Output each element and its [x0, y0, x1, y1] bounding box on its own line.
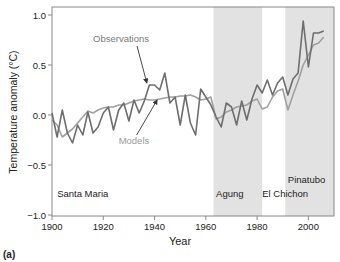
- annotation-label: Models: [119, 135, 150, 146]
- annotation-arrow: [137, 100, 157, 135]
- event-label: Santa Maria: [57, 188, 109, 199]
- y-tick-label: −1.0: [27, 210, 46, 221]
- shaded-region: [214, 7, 263, 216]
- event-label: El Chichon: [262, 188, 308, 199]
- series-models: [52, 37, 324, 137]
- x-tick-label: 2000: [298, 221, 319, 232]
- x-tick-label: 1900: [41, 221, 62, 232]
- panel-label: (a): [3, 249, 15, 260]
- x-tick-label: 1960: [195, 221, 216, 232]
- x-tick-label: 1920: [93, 221, 114, 232]
- annotation-label: Observations: [93, 33, 149, 44]
- y-tick-label: 0.5: [33, 60, 46, 71]
- x-tick-label: 1940: [144, 221, 165, 232]
- y-axis-label: Temperature anomaly (°C): [7, 50, 19, 173]
- x-axis-label: Year: [169, 235, 192, 247]
- temperature-anomaly-chart: −1.0−0.50.00.51.019001920194019601980200…: [0, 0, 340, 262]
- y-tick-label: −0.5: [27, 160, 46, 171]
- event-label: Agung: [216, 188, 243, 199]
- y-tick-label: 1.0: [33, 10, 46, 21]
- y-tick-label: 0.0: [33, 110, 46, 121]
- event-labels: Santa MariaAgungEl ChichonPinatubo: [57, 174, 325, 199]
- event-label: Pinatubo: [288, 174, 326, 185]
- x-tick-label: 1980: [247, 221, 268, 232]
- annotation-arrow: [137, 46, 147, 83]
